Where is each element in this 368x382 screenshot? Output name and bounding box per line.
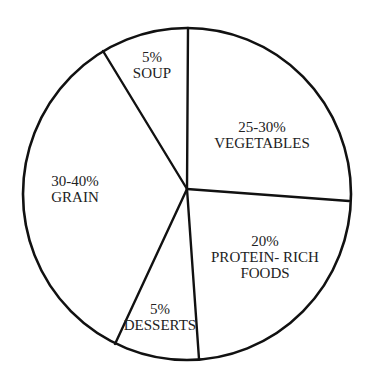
slice-name: PROTEIN- RICH <box>211 249 319 265</box>
divider-soup-vegetables <box>187 28 188 189</box>
slice-name: FOODS <box>240 265 289 281</box>
slice-percent: 5% <box>142 49 162 65</box>
slice-name: SOUP <box>133 65 171 81</box>
slice-percent: 20% <box>251 233 279 249</box>
slice-name: GRAIN <box>51 189 99 205</box>
slice-name: VEGETABLES <box>214 135 309 151</box>
slice-label-grain: 30-40%GRAIN <box>51 173 99 205</box>
slice-percent: 25-30% <box>238 119 286 135</box>
pie-chart: 5%SOUP25-30%VEGETABLES20%PROTEIN- RICHFO… <box>0 0 368 382</box>
slice-name: DESSERTS <box>124 317 196 333</box>
slice-percent: 30-40% <box>51 173 99 189</box>
slice-percent: 5% <box>150 301 170 317</box>
